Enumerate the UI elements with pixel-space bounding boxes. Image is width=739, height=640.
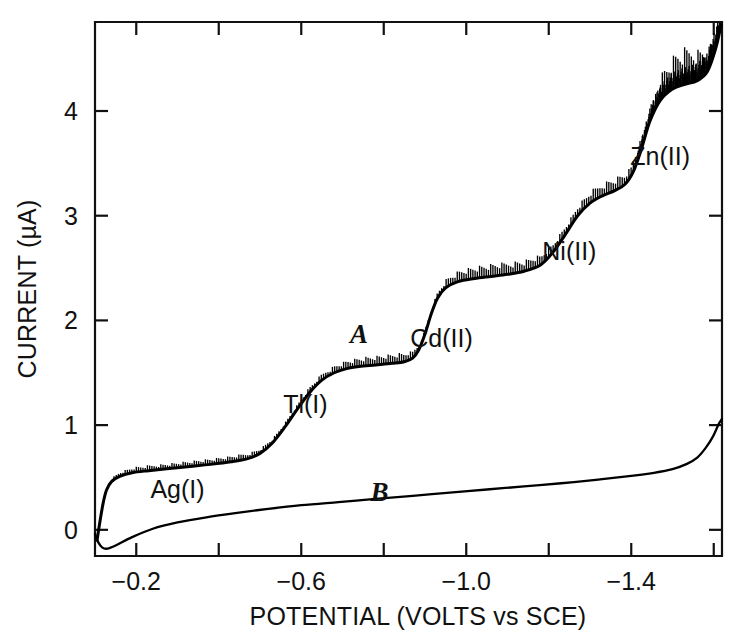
- series-annotations: Ag(I)Tl(I)ACd(II)BNi(II)Zn(II): [150, 142, 690, 506]
- x-tick-label: −1.4: [607, 567, 656, 595]
- polarogram-figure: −0.2−0.6−1.0−1.4 01234 Ag(I)Tl(I)ACd(II)…: [0, 0, 739, 640]
- y-tick-label: 0: [64, 516, 78, 544]
- annotation-znii: Zn(II): [630, 142, 690, 170]
- annotation-tli: Tl(I): [283, 390, 327, 418]
- x-tick-label: −0.6: [277, 567, 326, 595]
- annotation-cdii: Cd(II): [410, 324, 473, 352]
- series-a-oscillations: [105, 23, 719, 496]
- y-tick-label: 2: [64, 306, 78, 334]
- annotation-a: A: [348, 319, 368, 349]
- x-axis-tick-labels: −0.2−0.6−1.0−1.4: [112, 567, 656, 595]
- x-tick-label: −0.2: [112, 567, 161, 595]
- series-a-line: [97, 24, 721, 540]
- x-tick-label: −1.0: [442, 567, 491, 595]
- series-a-polarogram-curve: [97, 24, 721, 540]
- y-axis-tick-labels: 01234: [64, 97, 78, 544]
- polarogram-plot: −0.2−0.6−1.0−1.4 01234 Ag(I)Tl(I)ACd(II)…: [0, 0, 739, 640]
- x-axis-title: POTENTIAL (VOLTS vs SCE): [250, 602, 587, 630]
- annotation-b: B: [370, 477, 389, 507]
- y-tick-label: 3: [64, 202, 78, 230]
- y-tick-label: 4: [64, 97, 78, 125]
- y-tick-label: 1: [64, 411, 78, 439]
- annotation-agi: Ag(I): [150, 475, 204, 503]
- y-axis-title: CURRENT (µA): [13, 200, 41, 379]
- annotation-niii: Ni(II): [542, 237, 596, 265]
